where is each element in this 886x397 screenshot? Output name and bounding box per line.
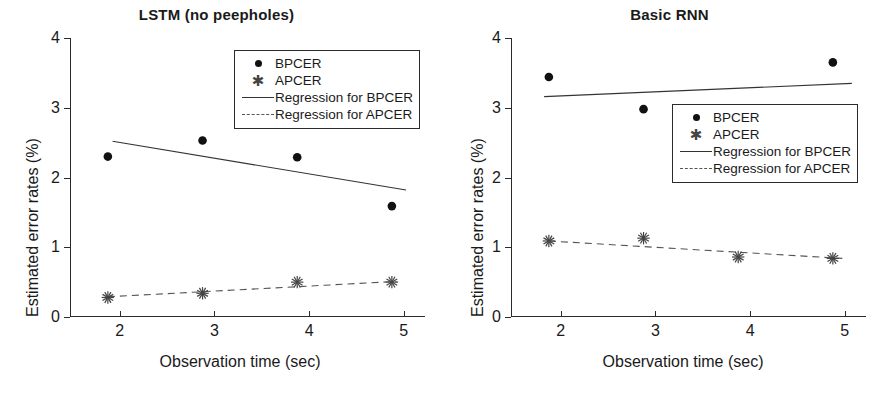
x-tick-label-2-left: 2 [115,323,124,339]
data-point-bpcer [104,152,113,161]
data-point-bpcer [639,105,648,114]
regression-line-bpcer [113,141,406,190]
data-point-bpcer [545,73,554,82]
x-axis-label-left: Observation time (sec) [60,353,420,371]
x-tick-label-4-left: 4 [305,323,314,339]
y-tick-label-2-left: 2 [51,170,60,186]
legend-label-bpcer: BPCER [275,57,322,71]
y-tick-label-1-right: 1 [492,239,501,255]
y-tick-label-0-left: 0 [51,309,60,325]
legend-row-bpcer: BPCER [679,109,850,126]
x-axis-label-right: Observation time (sec) [503,353,863,371]
legend-row-reg-bpcer: Regression for BPCER [679,143,850,160]
legend-label-apcer: APCER [275,74,322,88]
legend-label-reg-bpcer: Regression for BPCER [713,145,851,159]
regression-line-bpcer [544,83,852,96]
data-point-apcer [102,291,114,303]
solid-line-key-icon [679,151,713,152]
legend-label-reg-apcer: Regression for APCER [275,108,412,122]
legend-row-apcer: ✱ APCER [679,126,850,143]
legend-right: BPCER ✱ APCER Regression for BPCER Regre… [672,104,858,183]
y-tick-0-right [505,317,511,318]
data-point-apcer [196,287,208,299]
data-point-apcer [543,235,555,247]
data-point-bpcer [198,136,207,145]
legend-row-bpcer: BPCER [241,55,412,72]
legend-left: BPCER ✱ APCER Regression for BPCER Regre… [234,50,420,129]
legend-label-apcer: APCER [713,128,760,142]
x-tick-label-4-right: 4 [746,323,755,339]
panel-title-lstm: LSTM (no peepholes) [20,6,413,23]
x-tick-label-2-right: 2 [556,323,565,339]
regression-line-apcer [549,241,842,258]
figure-canvas: LSTM (no peepholes) Estimated error rate… [0,0,886,397]
dashed-line-key-icon [241,114,275,115]
legend-label-bpcer: BPCER [713,111,760,125]
panel-lstm: LSTM (no peepholes) Estimated error rate… [0,0,443,397]
x-tick-label-5-right: 5 [840,323,849,339]
y-tick-label-3-right: 3 [492,100,501,116]
y-tick-label-1-left: 1 [51,239,60,255]
filled-circle-marker-icon [241,60,275,67]
asterisk-marker-icon: ✱ [679,127,713,142]
solid-line-key-icon [241,97,275,98]
data-point-apcer [827,252,839,264]
x-tick-label-3-left: 3 [210,323,219,339]
legend-row-reg-apcer: Regression for APCER [241,106,412,123]
data-point-bpcer [829,58,838,67]
regression-line-apcer [108,281,397,296]
y-tick-label-3-left: 3 [51,100,60,116]
legend-row-apcer: ✱ APCER [241,72,412,89]
filled-circle-marker-icon [679,114,713,121]
y-axis-label-right: Estimated error rates (%) [469,138,487,317]
x-tick-label-3-right: 3 [651,323,660,339]
y-tick-label-4-left: 4 [51,30,60,46]
dashed-line-key-icon [679,168,713,169]
legend-row-reg-bpcer: Regression for BPCER [241,89,412,106]
legend-row-reg-apcer: Regression for APCER [679,160,850,177]
y-tick-label-4-right: 4 [492,30,501,46]
panel-basic-rnn: Basic RNN Estimated error rates (%) Obse… [443,0,886,397]
legend-label-reg-bpcer: Regression for BPCER [275,91,413,105]
asterisk-marker-icon: ✱ [241,73,275,88]
y-tick-0-left [64,317,70,318]
data-point-apcer [386,276,398,288]
panel-title-basic-rnn: Basic RNN [473,6,866,23]
y-axis-label-left: Estimated error rates (%) [24,138,42,317]
y-tick-label-2-right: 2 [492,170,501,186]
data-point-bpcer [388,202,397,211]
data-point-bpcer [293,153,302,162]
data-point-apcer [637,232,649,244]
y-tick-label-0-right: 0 [492,309,501,325]
legend-label-reg-apcer: Regression for APCER [713,162,850,176]
x-tick-label-5-left: 5 [399,323,408,339]
